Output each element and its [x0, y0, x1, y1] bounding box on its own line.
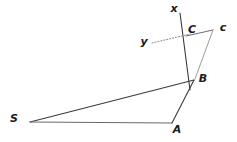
segment-s-b [30, 80, 194, 122]
segment-s-a [30, 122, 172, 123]
geometry-diagram: S A B C x y c [0, 0, 237, 142]
segment-ray-y [152, 34, 190, 43]
label-ray-x: x [169, 2, 178, 15]
label-point-a: A [172, 123, 182, 136]
geometry-canvas: S A B C x y c [0, 0, 237, 142]
label-ray-y: y [140, 35, 148, 48]
label-point-c: C [188, 23, 196, 36]
label-point-s: S [10, 112, 18, 125]
label-point-b: B [199, 72, 207, 85]
segment-a-b [172, 80, 194, 123]
label-ray-c: c [220, 21, 227, 34]
